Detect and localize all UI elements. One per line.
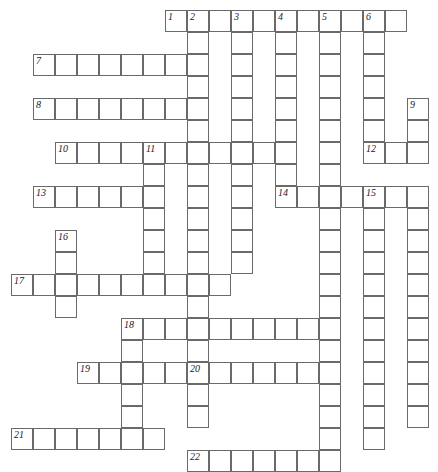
grid-cell[interactable] bbox=[209, 274, 231, 296]
grid-cell[interactable] bbox=[187, 186, 209, 208]
grid-cell[interactable] bbox=[231, 208, 253, 230]
grid-cell[interactable] bbox=[363, 274, 385, 296]
grid-cell[interactable] bbox=[143, 252, 165, 274]
grid-cell[interactable] bbox=[121, 362, 143, 384]
grid-cell[interactable] bbox=[121, 274, 143, 296]
grid-cell[interactable] bbox=[275, 32, 297, 54]
grid-cell[interactable] bbox=[143, 54, 165, 76]
grid-cell[interactable] bbox=[143, 318, 165, 340]
grid-cell[interactable] bbox=[143, 186, 165, 208]
grid-cell[interactable] bbox=[363, 318, 385, 340]
grid-cell[interactable] bbox=[231, 318, 253, 340]
grid-cell-numbered[interactable]: 6 bbox=[363, 10, 385, 32]
grid-cell[interactable] bbox=[55, 186, 77, 208]
grid-cell[interactable] bbox=[231, 98, 253, 120]
grid-cell[interactable] bbox=[121, 406, 143, 428]
grid-cell[interactable] bbox=[363, 384, 385, 406]
grid-cell[interactable] bbox=[165, 362, 187, 384]
grid-cell[interactable] bbox=[363, 120, 385, 142]
grid-cell[interactable] bbox=[275, 362, 297, 384]
grid-cell-numbered[interactable]: 17 bbox=[11, 274, 33, 296]
grid-cell[interactable] bbox=[407, 384, 429, 406]
grid-cell-numbered[interactable]: 2 bbox=[187, 10, 209, 32]
grid-cell[interactable] bbox=[187, 120, 209, 142]
grid-cell[interactable] bbox=[187, 230, 209, 252]
grid-cell[interactable] bbox=[407, 208, 429, 230]
grid-cell[interactable] bbox=[231, 142, 253, 164]
grid-cell[interactable] bbox=[407, 406, 429, 428]
grid-cell[interactable] bbox=[407, 362, 429, 384]
grid-cell[interactable] bbox=[363, 230, 385, 252]
grid-cell[interactable] bbox=[275, 450, 297, 472]
grid-cell-numbered[interactable]: 4 bbox=[275, 10, 297, 32]
grid-cell[interactable] bbox=[363, 32, 385, 54]
grid-cell[interactable] bbox=[319, 450, 341, 472]
grid-cell[interactable] bbox=[77, 274, 99, 296]
grid-cell[interactable] bbox=[121, 186, 143, 208]
grid-cell[interactable] bbox=[165, 54, 187, 76]
grid-cell[interactable] bbox=[319, 362, 341, 384]
grid-cell[interactable] bbox=[55, 428, 77, 450]
grid-cell-numbered[interactable]: 15 bbox=[363, 186, 385, 208]
grid-cell-numbered[interactable]: 10 bbox=[55, 142, 77, 164]
grid-cell[interactable] bbox=[143, 230, 165, 252]
grid-cell[interactable] bbox=[209, 142, 231, 164]
grid-cell[interactable] bbox=[363, 428, 385, 450]
grid-cell[interactable] bbox=[187, 98, 209, 120]
grid-cell[interactable] bbox=[55, 54, 77, 76]
grid-cell[interactable] bbox=[187, 318, 209, 340]
grid-cell[interactable] bbox=[407, 274, 429, 296]
grid-cell-numbered[interactable]: 20 bbox=[187, 362, 209, 384]
grid-cell-numbered[interactable]: 1 bbox=[165, 10, 187, 32]
grid-cell[interactable] bbox=[55, 252, 77, 274]
grid-cell[interactable] bbox=[187, 340, 209, 362]
grid-cell[interactable] bbox=[319, 274, 341, 296]
grid-cell[interactable] bbox=[231, 450, 253, 472]
grid-cell[interactable] bbox=[275, 98, 297, 120]
grid-cell[interactable] bbox=[385, 186, 407, 208]
grid-cell-numbered[interactable]: 9 bbox=[407, 98, 429, 120]
grid-cell[interactable] bbox=[143, 362, 165, 384]
grid-cell[interactable] bbox=[55, 296, 77, 318]
grid-cell[interactable] bbox=[231, 120, 253, 142]
grid-cell[interactable] bbox=[363, 76, 385, 98]
grid-cell[interactable] bbox=[231, 76, 253, 98]
grid-cell[interactable] bbox=[231, 32, 253, 54]
grid-cell[interactable] bbox=[319, 230, 341, 252]
grid-cell[interactable] bbox=[319, 406, 341, 428]
grid-cell[interactable] bbox=[363, 296, 385, 318]
grid-cell[interactable] bbox=[209, 450, 231, 472]
grid-cell[interactable] bbox=[385, 142, 407, 164]
grid-cell[interactable] bbox=[275, 318, 297, 340]
grid-cell[interactable] bbox=[363, 54, 385, 76]
grid-cell[interactable] bbox=[187, 208, 209, 230]
grid-cell[interactable] bbox=[187, 252, 209, 274]
grid-cell[interactable] bbox=[319, 318, 341, 340]
grid-cell[interactable] bbox=[231, 186, 253, 208]
grid-cell[interactable] bbox=[319, 98, 341, 120]
grid-cell[interactable] bbox=[275, 142, 297, 164]
grid-cell[interactable] bbox=[407, 186, 429, 208]
grid-cell[interactable] bbox=[99, 54, 121, 76]
grid-cell[interactable] bbox=[99, 274, 121, 296]
grid-cell[interactable] bbox=[319, 208, 341, 230]
grid-cell-numbered[interactable]: 5 bbox=[319, 10, 341, 32]
grid-cell[interactable] bbox=[55, 98, 77, 120]
grid-cell[interactable] bbox=[319, 252, 341, 274]
grid-cell[interactable] bbox=[407, 120, 429, 142]
grid-cell[interactable] bbox=[319, 120, 341, 142]
grid-cell[interactable] bbox=[77, 54, 99, 76]
grid-cell[interactable] bbox=[319, 54, 341, 76]
grid-cell-numbered[interactable]: 18 bbox=[121, 318, 143, 340]
grid-cell[interactable] bbox=[319, 428, 341, 450]
grid-cell[interactable] bbox=[165, 274, 187, 296]
grid-cell[interactable] bbox=[297, 186, 319, 208]
grid-cell[interactable] bbox=[319, 76, 341, 98]
grid-cell[interactable] bbox=[121, 384, 143, 406]
grid-cell[interactable] bbox=[33, 428, 55, 450]
grid-cell[interactable] bbox=[187, 406, 209, 428]
grid-cell[interactable] bbox=[165, 318, 187, 340]
grid-cell[interactable] bbox=[275, 164, 297, 186]
grid-cell[interactable] bbox=[231, 230, 253, 252]
